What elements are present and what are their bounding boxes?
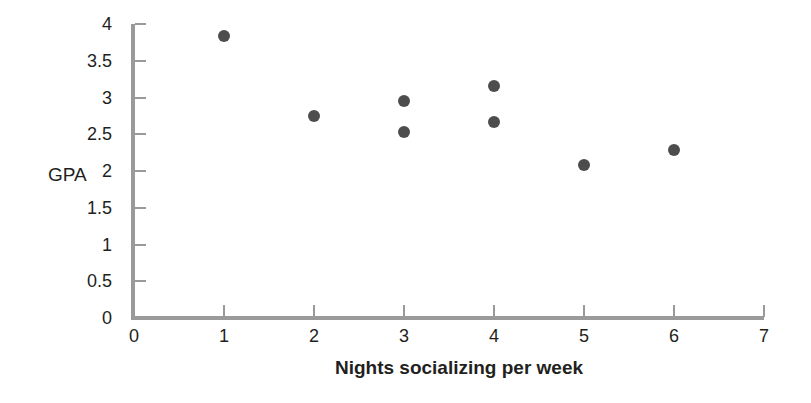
y-axis-tick [135,280,146,282]
x-axis-tick-label: 4 [474,327,514,345]
y-axis-tick [135,170,146,172]
x-axis-tick [493,305,495,317]
y-axis-title: GPA [48,165,87,184]
y-axis-tick-label-text: 4 [0,15,124,33]
x-axis-tick [583,305,585,317]
y-axis-tick-label-text: 2.5 [0,125,124,143]
data-point [668,144,680,156]
y-axis-tick-label-text: 1 [0,236,124,254]
data-point [398,95,410,107]
data-point [218,30,230,42]
y-axis-tick-label: 0.5 [0,272,124,290]
y-axis-tick [135,207,146,209]
x-axis-title-text: Nights socializing per week [228,358,583,377]
y-axis-tick-label: 1 [0,236,124,254]
y-axis-tick-label: 2.5 [0,125,124,143]
x-axis-title: Nights socializing per week [0,358,811,377]
x-axis-line [131,316,764,320]
data-point [488,116,500,128]
y-axis-tick [135,60,146,62]
data-point [398,126,410,138]
y-axis-tick-label: 3.5 [0,52,124,70]
y-axis-tick-label: 3 [0,89,124,107]
scatter-plot-figure: 00.511.522.533.54 01234567 GPA Nights so… [0,0,811,403]
y-axis-tick [135,23,146,25]
data-point [308,110,320,122]
x-axis-tick-label: 0 [114,327,154,345]
y-axis-tick [135,244,146,246]
x-axis-tick [313,305,315,317]
x-axis-tick-label: 7 [744,327,784,345]
y-axis-tick-label-text: 1.5 [0,199,124,217]
y-axis-tick-label-text: 3 [0,89,124,107]
y-axis-tick [135,133,146,135]
y-axis-tick-label-text: 0.5 [0,272,124,290]
x-axis-tick-label: 3 [384,327,424,345]
x-axis-tick-label: 1 [204,327,244,345]
y-axis-line [131,24,135,320]
y-axis-tick-label: 0 [0,309,124,327]
x-axis-tick [673,305,675,317]
x-axis-tick-label: 2 [294,327,334,345]
y-axis-tick-label: 1.5 [0,199,124,217]
y-axis-tick-label-text: 3.5 [0,52,124,70]
x-axis-tick [223,305,225,317]
y-axis-tick [135,97,146,99]
data-point [578,159,590,171]
data-point [488,80,500,92]
plot-area: 00.511.522.533.54 01234567 GPA Nights so… [0,0,811,403]
x-axis-tick [763,305,765,317]
x-axis-tick-label: 6 [654,327,694,345]
x-axis-tick-label: 5 [564,327,604,345]
y-axis-tick [135,317,146,319]
x-axis-tick [403,305,405,317]
y-axis-tick-label: 4 [0,15,124,33]
y-axis-tick-label-text: 0 [0,309,124,327]
